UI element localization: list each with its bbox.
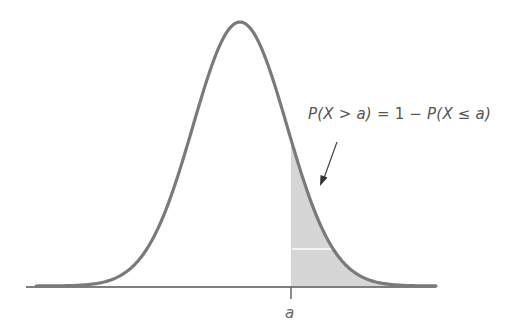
arrow-icon [320, 142, 337, 186]
cutoff-label: a [285, 304, 294, 322]
normal-curve-figure [0, 0, 512, 333]
formula-right: P(X ≤ a) [427, 105, 491, 123]
formula-left: P(X > a) [308, 105, 372, 123]
formula-middle: = 1 − [372, 105, 427, 123]
normal-density-curve [36, 22, 436, 286]
probability-formula: P(X > a) = 1 − P(X ≤ a) [308, 105, 491, 123]
upper-tail-shaded-area [291, 139, 436, 286]
